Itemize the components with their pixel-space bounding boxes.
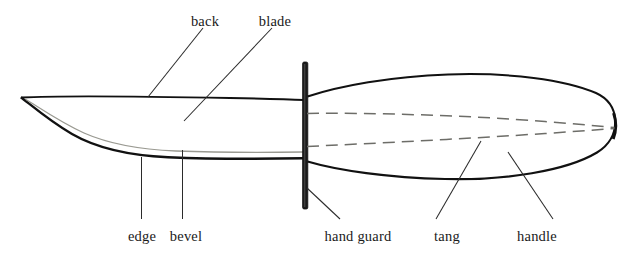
handle-butt-tip (613, 113, 615, 139)
tang-lower-dashed-line (307, 128, 615, 146)
label-back: back (191, 14, 219, 29)
label-bevel: bevel (170, 229, 202, 244)
leader-handle (508, 152, 553, 219)
label-edge: edge (128, 229, 156, 244)
blade-bevel-line (26, 100, 303, 153)
hand-guard-shape (303, 62, 308, 209)
label-tang: tang (434, 229, 460, 244)
knife-diagram-svg (0, 0, 634, 256)
tang-upper-dashed-line (307, 113, 615, 127)
leader-back (148, 28, 203, 97)
blade-back-line (22, 96, 305, 100)
blade-edge-line (21, 97, 304, 158)
knife-anatomy-figure: back blade edge bevel hand guard tang ha… (0, 0, 634, 256)
label-hand-guard: hand guard (325, 229, 392, 244)
leader-hand-guard (307, 188, 340, 219)
handle-bottom-line (308, 120, 616, 179)
label-handle: handle (517, 229, 557, 244)
leader-blade (184, 28, 272, 121)
label-blade: blade (259, 14, 291, 29)
